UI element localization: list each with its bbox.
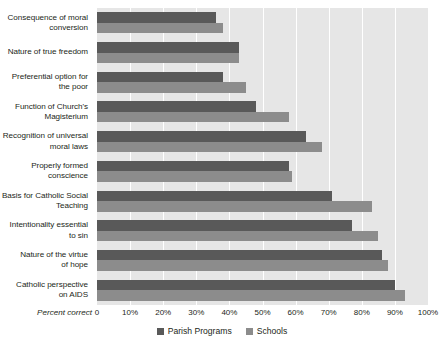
legend-item-parish-programs: Parish Programs	[157, 326, 232, 336]
x-tick-label: 70%	[321, 308, 337, 317]
x-tick-label: 60%	[288, 308, 304, 317]
x-tick-label: 0	[95, 308, 99, 317]
bar-parish-programs	[97, 101, 256, 112]
bar-group	[97, 97, 428, 127]
bar-parish-programs	[97, 191, 332, 202]
x-tick-label: 90%	[387, 308, 403, 317]
bar-group	[97, 127, 428, 157]
category-label: Consequence of moral conversion	[0, 8, 93, 38]
bar-schools	[97, 290, 405, 301]
category-label: Nature of true freedom	[0, 38, 93, 68]
bar-parish-programs	[97, 72, 223, 83]
plot-area	[97, 8, 428, 305]
legend: Parish Programs Schools	[0, 326, 444, 336]
bar-schools	[97, 82, 246, 93]
bar-group	[97, 157, 428, 187]
bar-schools	[97, 23, 223, 34]
x-tick-label: 100%	[418, 308, 438, 317]
bar-parish-programs	[97, 250, 382, 261]
bar-schools	[97, 260, 388, 271]
bar-group	[97, 186, 428, 216]
bar-parish-programs	[97, 12, 216, 23]
category-label: Recognition of universal moral laws	[0, 127, 93, 157]
bar-group	[97, 8, 428, 38]
bar-parish-programs	[97, 131, 306, 142]
x-tick-label: 20%	[155, 308, 171, 317]
x-tick-label: 10%	[122, 308, 138, 317]
bar-parish-programs	[97, 280, 395, 291]
gridline	[428, 8, 429, 305]
bar-schools	[97, 142, 322, 153]
bars-layer	[97, 8, 428, 305]
bar-group	[97, 67, 428, 97]
legend-label: Schools	[257, 326, 288, 336]
x-tick-label: 80%	[354, 308, 370, 317]
bar-schools	[97, 201, 372, 212]
bar-parish-programs	[97, 220, 352, 231]
bar-group	[97, 246, 428, 276]
bar-schools	[97, 112, 289, 123]
category-label: Properly formed conscience	[0, 157, 93, 187]
category-label: Nature of the virtue of hope	[0, 246, 93, 276]
legend-swatch-icon	[157, 328, 164, 335]
bar-schools	[97, 53, 239, 64]
category-label: Intentionality essential to sin	[0, 216, 93, 246]
bar-parish-programs	[97, 161, 289, 172]
bar-group	[97, 38, 428, 68]
x-axis: Percent correct 010%20%30%40%50%60%70%80…	[0, 307, 444, 321]
bar-group	[97, 216, 428, 246]
x-tick-label: 30%	[188, 308, 204, 317]
category-axis: Consequence of moral conversion Nature o…	[0, 8, 93, 305]
legend-label: Parish Programs	[168, 326, 232, 336]
category-label: Preferential option for the poor	[0, 67, 93, 97]
category-label: Catholic perspective on AIDS	[0, 275, 93, 305]
x-axis-label: Percent correct	[37, 308, 92, 317]
legend-item-schools: Schools	[246, 326, 288, 336]
bar-chart: Consequence of moral conversion Nature o…	[0, 0, 444, 343]
bar-parish-programs	[97, 42, 239, 53]
category-label: Basis for Catholic Social Teaching	[0, 186, 93, 216]
bar-schools	[97, 231, 378, 242]
x-tick-label: 50%	[254, 308, 270, 317]
x-tick-label: 40%	[221, 308, 237, 317]
bar-group	[97, 275, 428, 305]
category-label: Function of Church's Magisterium	[0, 97, 93, 127]
bar-schools	[97, 171, 292, 182]
legend-swatch-icon	[246, 328, 253, 335]
